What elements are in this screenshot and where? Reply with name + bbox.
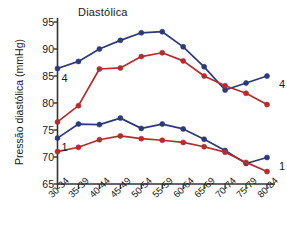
data-point xyxy=(202,64,207,69)
data-point xyxy=(55,149,60,154)
data-point xyxy=(118,65,123,70)
data-point xyxy=(223,150,228,155)
data-point xyxy=(118,116,123,121)
data-point xyxy=(181,126,186,131)
data-point xyxy=(202,137,207,142)
data-point xyxy=(97,47,102,52)
series-4 xyxy=(55,29,270,92)
series-4-red xyxy=(55,50,270,124)
data-point xyxy=(97,66,102,71)
data-point xyxy=(160,29,165,34)
data-point xyxy=(160,138,165,143)
data-point xyxy=(265,169,270,174)
data-point xyxy=(97,137,102,142)
data-point xyxy=(139,126,144,131)
series-1-left-label: 1 xyxy=(62,141,68,153)
data-point xyxy=(118,38,123,43)
data-point xyxy=(265,74,270,79)
data-point xyxy=(118,133,123,138)
series-4-right-label: 4 xyxy=(279,78,285,90)
data-point xyxy=(160,122,165,127)
data-point xyxy=(76,59,81,64)
data-point xyxy=(181,140,186,145)
data-point xyxy=(76,122,81,127)
data-point xyxy=(244,160,249,165)
data-point xyxy=(265,155,270,160)
series-line xyxy=(58,32,268,90)
data-point xyxy=(265,102,270,107)
data-point xyxy=(202,144,207,149)
series-1-red xyxy=(55,133,270,174)
data-point xyxy=(181,44,186,49)
data-point xyxy=(202,74,207,79)
series-1-right-label: 1 xyxy=(279,160,285,172)
data-point xyxy=(223,83,228,88)
data-point xyxy=(244,81,249,86)
data-point xyxy=(181,58,186,63)
data-point xyxy=(55,66,60,71)
data-point xyxy=(160,50,165,55)
data-point xyxy=(139,30,144,35)
data-point xyxy=(76,145,81,150)
data-point xyxy=(55,136,60,141)
data-point xyxy=(244,91,249,96)
data-point xyxy=(97,122,102,127)
data-point xyxy=(139,136,144,141)
data-point xyxy=(76,103,81,108)
data-point xyxy=(139,54,144,59)
data-point xyxy=(55,119,60,124)
plot-canvas xyxy=(0,0,287,234)
series-4-left-label: 4 xyxy=(62,72,68,84)
diastolic-blood-pressure-chart: Diastólica Pressão diastólica (mmHg) 657… xyxy=(0,0,287,234)
